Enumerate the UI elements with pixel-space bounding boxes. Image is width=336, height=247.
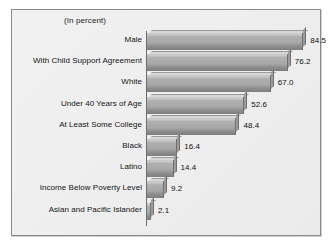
bar-side-face (174, 154, 177, 174)
bar-side-face (177, 133, 180, 153)
bar-row: Latino14.4 (12, 158, 322, 179)
bar-value-label: 84.5 (310, 36, 326, 45)
bar-front-face (147, 139, 177, 156)
bar-side-face (244, 91, 247, 111)
bar-category-label: Black (122, 141, 142, 150)
bar-row: Under 40 Years of Age52.6 (12, 95, 322, 116)
bar-value-label: 76.2 (295, 57, 311, 66)
bar-side-face (151, 197, 154, 217)
bar-side-face (236, 112, 239, 132)
bar-category-label: White (121, 77, 142, 86)
bar-row: White67.0 (12, 73, 322, 94)
bar-category-label: With Child Support Agreement (33, 56, 142, 65)
bar-row: With Child Support Agreement76.2 (12, 52, 322, 73)
bar-value-label: 48.4 (243, 121, 259, 130)
bar-value-label: 14.4 (181, 163, 197, 172)
bar-front-face (147, 181, 164, 198)
bar-front-face (147, 75, 271, 92)
bar (147, 118, 236, 135)
bar-front-face (147, 118, 236, 135)
bar-category-label: Latino (120, 162, 142, 171)
bar-row: Asian and Pacific Islander2.1 (12, 201, 322, 222)
plot-area: Male84.5With Child Support Agreement76.2… (12, 29, 322, 235)
chart-title: (In percent) (64, 16, 106, 25)
bar-value-label: 9.2 (171, 184, 182, 193)
bar-front-face (147, 33, 303, 50)
bar (147, 139, 177, 156)
bar-row: Black16.4 (12, 137, 322, 158)
chart-panel: (In percent) Male84.5With Child Support … (11, 9, 321, 236)
bar (147, 33, 303, 50)
bar-value-label: 52.6 (251, 100, 267, 109)
bar-row: Income Below Poverty Level9.2 (12, 179, 322, 200)
bar-category-label: Under 40 Years of Age (61, 99, 142, 108)
bar (147, 181, 164, 198)
bar-value-label: 16.4 (184, 142, 200, 151)
bar-side-face (271, 69, 274, 89)
bar-front-face (147, 54, 288, 71)
bar (147, 97, 244, 114)
bar (147, 203, 151, 220)
bar-category-label: Male (124, 35, 142, 44)
bar (147, 160, 174, 177)
bar-row: Male84.5 (12, 31, 322, 52)
bar-side-face (288, 48, 291, 68)
bar-category-label: At Least Some College (59, 120, 142, 129)
bar-front-face (147, 160, 174, 177)
bar-category-label: Income Below Poverty Level (40, 183, 142, 192)
bar-front-face (147, 203, 151, 220)
bar-front-face (147, 97, 244, 114)
bar-value-label: 2.1 (158, 206, 169, 215)
bar-side-face (164, 175, 167, 195)
bar (147, 75, 271, 92)
bar-side-face (303, 27, 306, 47)
bar-value-label: 67.0 (278, 78, 294, 87)
bar-row: At Least Some College48.4 (12, 116, 322, 137)
bar-category-label: Asian and Pacific Islander (49, 205, 142, 214)
bar (147, 54, 288, 71)
